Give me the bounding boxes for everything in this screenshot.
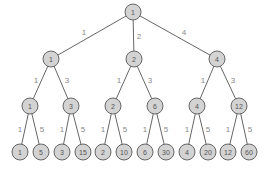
edge-label: 1: [18, 125, 23, 134]
tree-node: 1: [22, 98, 38, 114]
edge-label: 3: [231, 76, 236, 85]
node-label: 12: [235, 103, 243, 110]
node-label: 2: [111, 103, 115, 110]
tree-node: 2: [126, 51, 142, 67]
tree-node: 20: [200, 144, 216, 160]
tree-node: 1: [43, 51, 59, 67]
node-label: 60: [245, 149, 253, 156]
edge-label: 5: [206, 125, 211, 134]
tree-node: 4: [179, 144, 195, 160]
node-label: 30: [162, 149, 170, 156]
tree-diagram: 124131313151515151515 112413264121531521…: [0, 0, 266, 171]
edge-labels-layer: 124131313151515151515: [18, 28, 253, 134]
edge-label: 1: [201, 76, 206, 85]
edge-label: 5: [81, 125, 86, 134]
node-label: 4: [185, 149, 189, 156]
edge-label: 4: [182, 28, 187, 37]
node-label: 3: [69, 103, 73, 110]
edge-label: 1: [101, 125, 106, 134]
edge-label: 1: [185, 125, 190, 134]
edge-label: 1: [226, 125, 231, 134]
tree-node: 2: [95, 144, 111, 160]
tree-node: 30: [158, 144, 174, 160]
edge-label: 1: [143, 125, 148, 134]
tree-node: 3: [54, 144, 70, 160]
edge-label: 3: [148, 76, 153, 85]
tree-node: 60: [241, 144, 257, 160]
tree-node: 12: [231, 98, 247, 114]
edge-label: 1: [117, 76, 122, 85]
edge-label: 1: [34, 76, 39, 85]
edges-layer: [20, 12, 249, 152]
tree-node: 15: [75, 144, 91, 160]
tree-node: 3: [63, 98, 79, 114]
node-label: 6: [143, 149, 147, 156]
edge-label: 5: [164, 125, 169, 134]
node-label: 3: [60, 149, 64, 156]
node-label: 12: [224, 149, 232, 156]
node-label: 1: [49, 56, 53, 63]
nodes-layer: 11241326412153152106304201260: [12, 4, 257, 160]
edge-label: 5: [40, 125, 45, 134]
node-label: 1: [131, 9, 135, 16]
node-label: 6: [153, 103, 157, 110]
node-label: 4: [195, 103, 199, 110]
edge-label: 3: [65, 76, 70, 85]
edge-label: 2: [137, 32, 142, 41]
node-label: 5: [39, 149, 43, 156]
node-label: 10: [120, 149, 128, 156]
edge-label: 5: [248, 125, 253, 134]
tree-node: 12: [220, 144, 236, 160]
tree-node: 6: [147, 98, 163, 114]
node-label: 15: [79, 149, 87, 156]
tree-node: 1: [12, 144, 28, 160]
tree-node: 10: [116, 144, 132, 160]
edge-label: 5: [123, 125, 128, 134]
node-label: 1: [18, 149, 22, 156]
node-label: 20: [204, 149, 212, 156]
tree-edge: [133, 12, 217, 59]
node-label: 4: [215, 56, 219, 63]
tree-edge: [51, 12, 133, 59]
tree-node: 2: [105, 98, 121, 114]
tree-node: 6: [137, 144, 153, 160]
tree-node: 4: [209, 51, 225, 67]
node-label: 1: [28, 103, 32, 110]
edge-label: 1: [60, 125, 65, 134]
tree-node: 4: [189, 98, 205, 114]
tree-node: 5: [33, 144, 49, 160]
node-label: 2: [132, 56, 136, 63]
tree-node: 1: [125, 4, 141, 20]
node-label: 2: [101, 149, 105, 156]
edge-label: 1: [82, 28, 87, 37]
